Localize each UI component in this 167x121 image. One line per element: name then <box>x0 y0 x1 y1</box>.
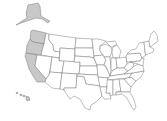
state-kansas[interactable] <box>79 66 98 75</box>
us-map <box>0 0 167 121</box>
state-north-dakota[interactable] <box>75 38 93 48</box>
state-maine[interactable] <box>149 31 158 47</box>
state-arkansas[interactable] <box>98 77 108 87</box>
state-new-mexico[interactable] <box>60 73 77 90</box>
state-alaska[interactable] <box>16 3 50 25</box>
state-colorado[interactable] <box>62 61 80 74</box>
state-florida[interactable] <box>116 92 136 110</box>
state-pennsylvania[interactable] <box>126 53 142 62</box>
state-wyoming[interactable] <box>59 48 75 62</box>
state-hawaii[interactable] <box>16 92 30 101</box>
